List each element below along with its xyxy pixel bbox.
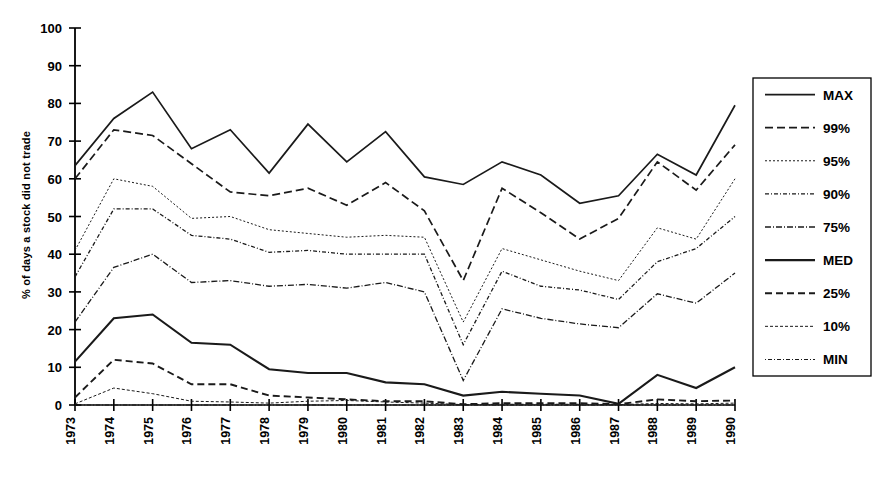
line-chart: % of days a stock did not trade 01020304… [0, 0, 880, 477]
x-tick-label: 1978 [258, 417, 272, 445]
x-tick-label: 1977 [219, 417, 233, 445]
x-tick-label: 1989 [685, 417, 699, 445]
x-tick-label: 1982 [413, 417, 427, 445]
legend-label-10pct: 10% [823, 319, 850, 334]
y-tick-label: 100 [40, 21, 62, 36]
x-tick-label: 1975 [142, 417, 156, 445]
y-tick-label: 40 [48, 247, 62, 262]
legend-label-med: MED [823, 253, 853, 268]
y-tick-label: 70 [48, 134, 62, 149]
x-tick-label: 1976 [180, 417, 194, 445]
x-tick-label: 1983 [452, 417, 466, 445]
y-tick-label: 50 [48, 210, 62, 225]
legend-label-min: MIN [823, 352, 848, 367]
x-tick-label: 1979 [297, 417, 311, 445]
legend-label-95pct: 95% [823, 154, 850, 169]
legend-label-90pct: 90% [823, 187, 850, 202]
y-tick-label: 30 [48, 285, 62, 300]
y-tick-label: 80 [48, 96, 62, 111]
legend-label-75pct: 75% [823, 220, 850, 235]
y-axis-title: % of days a stock did not trade [20, 131, 32, 299]
y-tick-label: 60 [48, 172, 62, 187]
x-tick-label: 1985 [530, 417, 544, 445]
legend-label-25pct: 25% [823, 286, 850, 301]
legend-label-99pct: 99% [823, 121, 850, 136]
y-tick-label: 10 [48, 360, 62, 375]
y-tick-label: 0 [55, 398, 62, 413]
x-tick-label: 1980 [336, 417, 350, 445]
x-tick-label: 1973 [64, 417, 78, 445]
x-tick-label: 1988 [646, 417, 660, 445]
x-tick-label: 1987 [608, 417, 622, 445]
x-tick-label: 1986 [569, 417, 583, 445]
chart-legend: MAX99%95%90%75%MED25%10%MIN [753, 78, 871, 376]
x-tick-label: 1981 [375, 417, 389, 445]
legend-label-max: MAX [823, 88, 853, 103]
x-tick-label: 1990 [724, 417, 738, 445]
x-tick-label: 1984 [491, 417, 505, 445]
x-tick-label: 1974 [103, 417, 117, 445]
chart-page: % of days a stock did not trade 01020304… [0, 0, 880, 477]
y-tick-label: 20 [48, 323, 62, 338]
y-tick-label: 90 [48, 59, 62, 74]
